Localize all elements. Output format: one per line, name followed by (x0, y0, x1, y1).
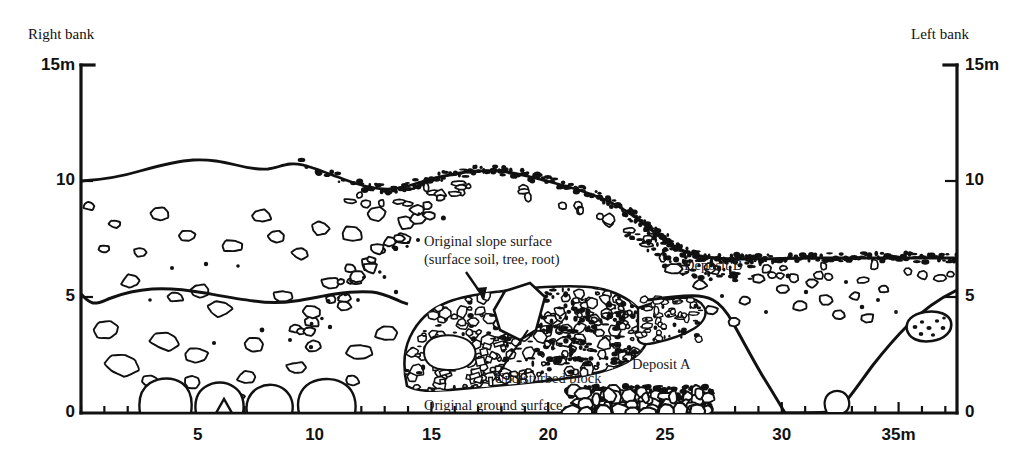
deposit-b-right-clast-8 (861, 314, 873, 322)
deposit-a-grain-422 (557, 388, 562, 391)
deposit-b-right-speck-1 (804, 290, 808, 294)
deposit-a-grain-138 (552, 287, 556, 289)
slope-surface-grain-225 (550, 178, 558, 181)
deposit-b-right-clast-11 (879, 286, 889, 293)
slope-surface-grain-189 (476, 169, 482, 173)
left-flank-clast-12 (367, 257, 375, 263)
deposit-a-grain-336 (634, 310, 637, 314)
deposit-a-matrix-105 (564, 362, 570, 364)
deposit-b-speck-7 (394, 290, 398, 294)
deposit-a-grain-153 (580, 298, 584, 301)
deposit-a-grain-391 (421, 365, 425, 371)
deposit-b-clast-23 (321, 278, 339, 288)
deposit-a-grain-142 (657, 351, 660, 355)
deposit-a-matrix-3 (563, 303, 567, 308)
slope-surface-grain-200 (500, 174, 506, 177)
deposit-b-right-speck-3 (860, 305, 865, 310)
basal-matrix-192 (655, 386, 660, 389)
deposit-a-clast-410 (422, 333, 426, 336)
deposit-a-matrix-139 (542, 328, 545, 334)
slope-surface-grain-170 (437, 172, 440, 176)
slope-surface-grain-197 (492, 165, 498, 169)
slope-surface-grain-188 (474, 165, 478, 170)
slope-surface-grain-413 (939, 253, 945, 256)
deposit-a-clast-152 (404, 317, 411, 321)
left-flank-speck-7 (378, 270, 382, 274)
slope-surface-grain-354 (813, 253, 817, 257)
right-slope-grain-72 (666, 233, 669, 237)
slope-subsurface-clast-6 (857, 277, 868, 283)
deposit-b-right-clast-3 (793, 301, 806, 310)
right-slope-grain-81 (629, 236, 635, 240)
deposit-a-grain-344 (423, 299, 428, 303)
left-flank-speck-8 (383, 275, 387, 279)
deposit-b-speck-10 (148, 298, 152, 302)
tongue-clast-14 (695, 336, 702, 342)
deposit-a-matrix-22 (585, 308, 590, 313)
x-axis-label-15: 15 (401, 425, 461, 445)
right-slope-grain-104 (662, 249, 669, 251)
deposit-a-matrix-31 (525, 358, 528, 361)
tongue-grain-22 (678, 329, 681, 333)
slope-surface-grain-414 (942, 259, 946, 261)
deposit-a-grain-312 (397, 384, 400, 387)
slope-surface-grain-410 (935, 255, 939, 259)
deposit-a-matrix-162 (561, 326, 566, 330)
deposit-b-clast-36 (109, 221, 121, 228)
deposit-a-grain-88 (516, 360, 522, 362)
deposit-a-grain-215 (420, 310, 423, 312)
deposit-b-clast-7 (105, 355, 139, 377)
basal-cobble-47 (592, 393, 600, 405)
deposit-a-grain-428 (416, 371, 422, 375)
left-flank-clast-18 (394, 235, 405, 242)
right-slope-grain-116 (662, 252, 666, 257)
right-slope-grain-66 (685, 249, 688, 252)
deposit-a-matrix-44 (594, 350, 598, 353)
left-flank-speck-11 (406, 245, 409, 248)
slope-surface-grain-405 (921, 255, 927, 258)
deposit-a-clast-369 (449, 283, 461, 295)
slope-subsurface-clast-12 (344, 199, 356, 203)
deposit-a-matrix-78 (629, 296, 633, 300)
deposit-b-speck-4 (236, 264, 240, 268)
deposit-a-matrix-100 (605, 356, 609, 360)
deposit-a-matrix-111 (563, 338, 568, 344)
deposit-b-speck-11 (212, 341, 216, 345)
deposit-a-matrix-172 (583, 348, 587, 351)
deposit-a-matrix-72 (644, 286, 652, 290)
y-axis-right-label-0: 0 (965, 402, 974, 422)
slope-surface-grain-113 (315, 170, 322, 176)
slope-surface-grain-334 (768, 255, 773, 258)
deposit-b-rock-clasts (84, 202, 421, 404)
slope-surface-grain-159 (412, 178, 419, 181)
deposit-a-matrix-133 (553, 359, 557, 365)
annotation-deposit-a: Deposit A (632, 355, 690, 373)
slope-subsurface-clast-17 (904, 268, 912, 275)
annotation-deposit-b: Deposit B (684, 256, 742, 274)
x-axis-label-35: 35m (869, 425, 929, 445)
deposit-a-grain-162 (599, 358, 601, 360)
right-slope-grain-107 (692, 274, 697, 279)
deposit-a-matrix-26 (611, 357, 619, 361)
slope-surface-grain-415 (945, 253, 949, 256)
slope-surface-grain-249 (602, 200, 606, 204)
slope-surface-grain-116 (324, 173, 331, 177)
deposit-a-clast-171 (392, 373, 404, 384)
right-slope-grain-16 (716, 275, 723, 278)
deposit-a-grain-241 (567, 288, 570, 292)
deposit-a-matrix-151 (550, 319, 554, 324)
deposit-a-matrix-161 (617, 335, 625, 337)
deposit-a-matrix-10 (551, 347, 555, 349)
slope-subsurface-clast-7 (776, 273, 784, 279)
right-slope-grain-115 (647, 231, 651, 235)
annotation-original-ground-surface: Original ground surface (424, 396, 563, 414)
right-slope-grain-96 (636, 238, 643, 241)
slope-subsurface-clast-27 (578, 207, 583, 214)
deposit-a-clast-242 (399, 389, 411, 399)
slope-surface-grain-384 (877, 255, 880, 259)
deposit-a-matrix-157 (578, 339, 582, 343)
deposit-b-speck-0 (170, 266, 174, 270)
deposit-a-matrix-176 (565, 315, 568, 320)
slope-surface-grain-253 (609, 204, 614, 209)
left-flank-clast-11 (345, 264, 356, 272)
